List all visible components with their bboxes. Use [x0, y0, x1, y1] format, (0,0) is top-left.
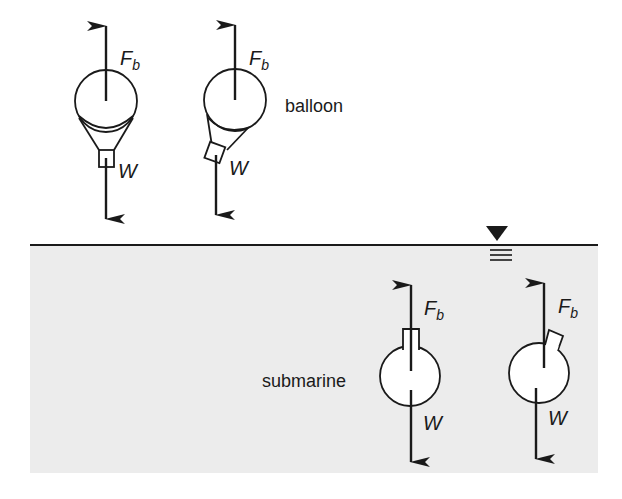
water-region: [30, 226, 598, 473]
weight-label: W: [118, 160, 139, 182]
submarine-caption: submarine: [262, 371, 346, 391]
weight-label: W: [423, 412, 444, 434]
weight-label: W: [229, 157, 250, 179]
submarine-hull: [509, 343, 569, 403]
buoyancy-stability-diagram: Fb W Fb W balloon Fb W submarine Fb W: [0, 0, 622, 499]
weight-label: W: [548, 407, 569, 429]
balloon-caption: balloon: [285, 96, 343, 116]
buoyancy-label: Fb: [249, 47, 269, 73]
buoyancy-label: Fb: [120, 47, 140, 73]
